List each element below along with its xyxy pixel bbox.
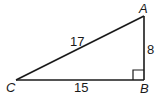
side-label-8: 8	[147, 42, 154, 57]
side-label-17: 17	[70, 34, 84, 49]
vertex-label-b: B	[140, 81, 149, 95]
vertex-label-a: A	[138, 1, 148, 16]
triangle-diagram: A B C 17 8 15	[0, 0, 157, 95]
vertex-label-c: C	[6, 80, 16, 95]
side-label-15: 15	[74, 80, 88, 95]
right-angle-marker	[133, 70, 144, 80]
